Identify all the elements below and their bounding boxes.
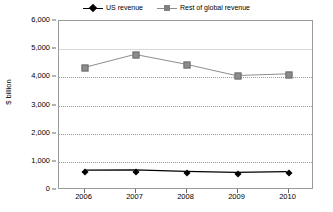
x-tick-label: 2006 bbox=[75, 192, 92, 201]
data-point-marker bbox=[285, 71, 292, 78]
y-tick-mark bbox=[52, 76, 56, 77]
x-tick-mark bbox=[237, 189, 238, 193]
x-tick-mark bbox=[186, 189, 187, 193]
gridline bbox=[59, 106, 312, 107]
square-marker-icon bbox=[157, 4, 177, 12]
data-point-marker bbox=[132, 51, 139, 58]
y-tick-label: 5,000 bbox=[31, 44, 50, 52]
y-tick-mark bbox=[52, 160, 56, 161]
y-tick-mark bbox=[52, 48, 56, 49]
x-tick-label: 2007 bbox=[126, 192, 143, 201]
diamond-marker-icon bbox=[83, 4, 103, 12]
y-tick-label: 4,000 bbox=[31, 72, 50, 80]
gridline bbox=[59, 49, 312, 50]
data-point-marker bbox=[81, 65, 88, 72]
y-tick-label: 6,000 bbox=[31, 16, 50, 24]
y-tick-mark bbox=[52, 104, 56, 105]
y-axis: 01,0002,0003,0004,0005,0006,000 bbox=[0, 20, 56, 189]
x-tick-label: 2008 bbox=[177, 192, 194, 201]
gridline bbox=[59, 162, 312, 163]
x-tick-mark bbox=[84, 189, 85, 193]
gridline bbox=[59, 77, 312, 78]
legend-label: US revenue bbox=[106, 4, 143, 12]
x-axis: 20062007200820092010 bbox=[58, 192, 313, 206]
y-tick-mark bbox=[52, 20, 56, 21]
gridline bbox=[59, 134, 312, 135]
x-tick-label: 2010 bbox=[279, 192, 296, 201]
x-tick-mark bbox=[135, 189, 136, 193]
revenue-line-chart: US revenue Rest of global revenue $ bill… bbox=[0, 0, 333, 212]
data-point-marker bbox=[183, 61, 190, 68]
data-point-marker bbox=[234, 73, 241, 80]
legend-label: Rest of global revenue bbox=[180, 4, 250, 12]
x-tick-label: 2009 bbox=[228, 192, 245, 201]
y-tick-label: 3,000 bbox=[31, 101, 50, 109]
y-tick-label: 1,000 bbox=[31, 157, 50, 165]
y-tick-mark bbox=[52, 132, 56, 133]
legend-item-rest-of-global-revenue: Rest of global revenue bbox=[157, 4, 250, 12]
legend-item-us-revenue: US revenue bbox=[83, 4, 143, 12]
y-tick-label: 0 bbox=[46, 185, 50, 193]
chart-legend: US revenue Rest of global revenue bbox=[0, 1, 333, 15]
plot-area bbox=[58, 20, 313, 189]
y-tick-mark bbox=[52, 189, 56, 190]
y-tick-label: 2,000 bbox=[31, 129, 50, 137]
series-layer bbox=[59, 21, 312, 188]
x-tick-mark bbox=[288, 189, 289, 193]
